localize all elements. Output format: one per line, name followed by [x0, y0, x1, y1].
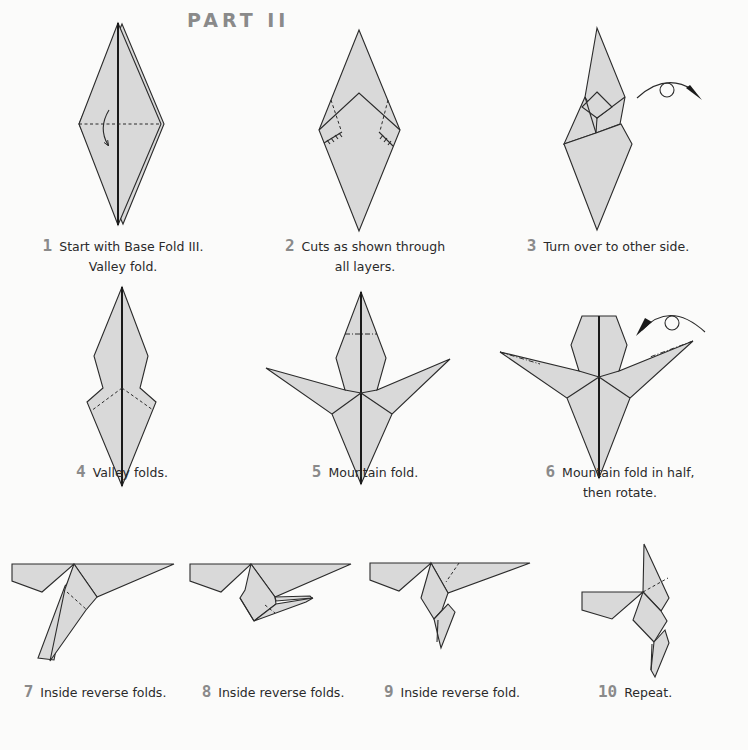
step-8-number: 8: [202, 682, 212, 701]
step-4-number: 4: [76, 462, 86, 481]
turn-over-arrow-icon: [637, 83, 702, 100]
step-9-diagram: [370, 563, 530, 648]
step-8-diagram: [190, 564, 351, 621]
step-2-diagram: [319, 30, 400, 231]
step-4-diagram: [87, 287, 156, 486]
step-1-number: 1: [43, 236, 53, 255]
step-4-caption: 4Valley folds.: [62, 462, 182, 483]
step-2-number: 2: [285, 236, 295, 255]
step-7-caption: 7Inside reverse folds.: [10, 682, 180, 703]
step-3-number: 3: [527, 236, 537, 255]
step-1-diagram: [79, 23, 164, 225]
step-10-caption: 10Repeat.: [585, 682, 685, 703]
step-5-number: 5: [312, 462, 322, 481]
origami-diagrams: [0, 0, 748, 750]
step-10-number: 10: [598, 682, 617, 701]
step-2-caption: 2Cuts as shown through all layers.: [270, 236, 460, 277]
step-6-caption: 6Mountain fold in half, then rotate.: [515, 462, 725, 503]
step-6-diagram: [500, 316, 693, 478]
step-7-diagram: [12, 564, 174, 661]
rotate-arrow-icon: [636, 315, 705, 336]
step-9-caption: 9Inside reverse fold.: [372, 682, 532, 703]
step-9-number: 9: [384, 682, 394, 701]
step-3-diagram: [564, 28, 632, 230]
step-8-caption: 8Inside reverse folds.: [188, 682, 358, 703]
step-3-caption: 3Turn over to other side.: [508, 236, 708, 257]
step-5-caption: 5Mountain fold.: [300, 462, 430, 483]
step-6-number: 6: [545, 462, 555, 481]
step-1-caption: 1Start with Base Fold III. Valley fold.: [28, 236, 218, 277]
step-5-diagram: [266, 292, 450, 484]
step-10-diagram: [582, 544, 669, 677]
step-7-number: 7: [24, 682, 34, 701]
